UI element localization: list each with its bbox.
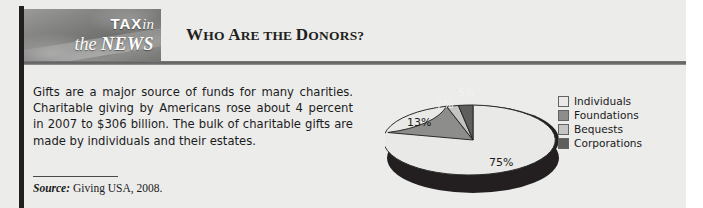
title-ho: HO — [203, 28, 228, 43]
chart-legend: Individuals Foundations Bequests Corpora… — [558, 94, 678, 150]
masthead-tax-word: TAX — [110, 15, 142, 32]
legend-swatch-foundations — [558, 110, 569, 121]
pie-chart: 75% 13% 7% 5% Individuals Foundations Be… — [385, 68, 685, 204]
legend-label-foundations: Foundations — [574, 108, 639, 122]
masthead-title: TAXin the NEWS — [74, 15, 154, 55]
source-divider — [33, 176, 118, 177]
title-cap-a: A — [228, 25, 240, 44]
masthead-line-1: TAXin — [74, 15, 154, 33]
title-onors: ONORS? — [308, 28, 364, 43]
masthead-line-2: the NEWS — [74, 34, 154, 55]
masthead-the-word: the — [74, 34, 101, 54]
source-text: Giving USA, 2008. — [70, 182, 162, 194]
source-label: Source: — [33, 182, 70, 194]
header-divider — [24, 61, 686, 65]
legend-swatch-bequests — [558, 124, 569, 135]
body-paragraph: Gifts are a major source of funds for ma… — [33, 84, 353, 149]
legend-item-corporations: Corporations — [558, 136, 678, 150]
pie-label-foundations: 13% — [407, 116, 431, 129]
pie-svg: 75% 13% 7% 5% — [385, 68, 565, 200]
pie-label-bequests: 7% — [436, 98, 453, 111]
title-the: THE — [263, 28, 296, 43]
right-margin — [686, 0, 703, 208]
legend-label-corporations: Corporations — [574, 136, 642, 150]
legend-label-bequests: Bequests — [574, 122, 623, 136]
masthead-banner: TAXin the NEWS — [24, 9, 161, 62]
legend-swatch-individuals — [558, 96, 569, 107]
source-note: Source: Giving USA, 2008. — [33, 182, 162, 194]
title-cap-d: D — [296, 25, 308, 44]
pie-graphic: 75% 13% 7% 5% — [385, 68, 565, 200]
pie-label-corporations: 5% — [458, 86, 475, 99]
pie-label-individuals: 75% — [489, 156, 513, 169]
body-column: Gifts are a major source of funds for ma… — [33, 84, 353, 149]
legend-item-bequests: Bequests — [558, 122, 678, 136]
masthead-news-word: NEWS — [101, 34, 154, 54]
legend-item-foundations: Foundations — [558, 108, 678, 122]
page-title: WHO ARE THE DONORS? — [186, 25, 364, 45]
title-cap-w: W — [186, 25, 203, 44]
masthead-in-word: in — [142, 16, 154, 32]
legend-swatch-corporations — [558, 138, 569, 149]
legend-item-individuals: Individuals — [558, 94, 678, 108]
legend-label-individuals: Individuals — [574, 94, 631, 108]
tax-in-the-news-box: TAXin the NEWS WHO ARE THE DONORS? Gifts… — [0, 0, 703, 208]
title-re: RE — [241, 28, 264, 43]
